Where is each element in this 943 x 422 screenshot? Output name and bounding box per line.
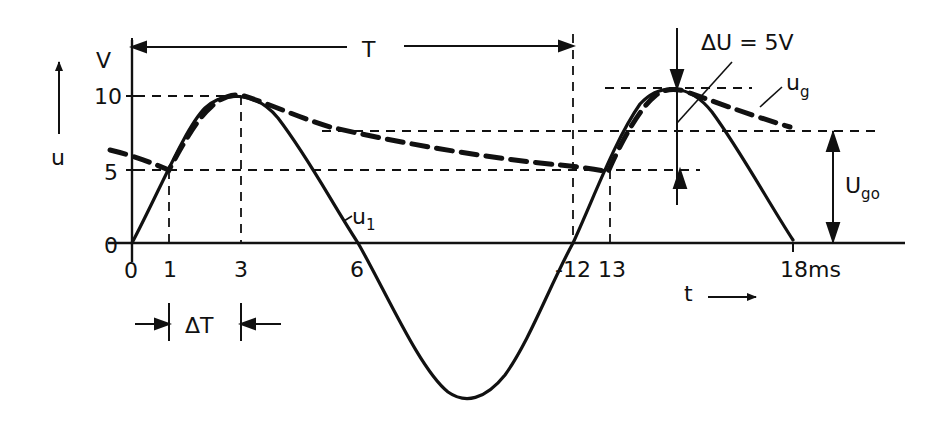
delta-u-label: ΔU = 5V <box>701 30 794 55</box>
x-tick-0: 0 <box>124 258 138 283</box>
y-quantity-label: u <box>51 145 65 170</box>
y-tick-5: 5 <box>104 160 118 185</box>
period-label: T <box>361 37 376 62</box>
x-tick-13: 13 <box>598 257 626 282</box>
ug-label: ug <box>786 70 809 101</box>
guide-lines <box>136 34 878 243</box>
x-tick-3: 3 <box>234 257 248 282</box>
x-tick-1: 1 <box>163 257 177 282</box>
ug-leader <box>760 87 782 107</box>
x-tick-6: 6 <box>350 257 364 282</box>
u1-leader <box>344 216 352 221</box>
delta-t-label: ΔT <box>185 313 214 338</box>
y-tick-10: 10 <box>94 84 122 109</box>
x-tick-18: 18ms <box>780 257 841 282</box>
ugo-label: Ugo <box>845 173 880 203</box>
x-quantity-label: t <box>684 281 693 306</box>
y-unit-label: V <box>96 48 111 73</box>
y-tick-0: 0 <box>104 233 118 258</box>
ugo-dimension <box>827 131 839 243</box>
ripple-voltage-diagram: u V 10 5 0 0 1 3 6 -12 13 18ms t T <box>0 0 943 422</box>
period-dimension <box>132 38 573 60</box>
u1-label: u1 <box>352 204 376 234</box>
